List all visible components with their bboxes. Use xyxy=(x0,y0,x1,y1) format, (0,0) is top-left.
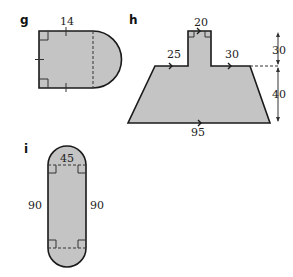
shape-g xyxy=(39,31,122,88)
measure-30-top: 30 xyxy=(225,48,239,61)
arrowhead xyxy=(276,117,280,122)
measure-40: 40 xyxy=(272,88,286,101)
measure-45: 45 xyxy=(60,152,74,165)
measure-14: 14 xyxy=(60,15,74,28)
arrowhead xyxy=(276,67,280,72)
measure-90-right: 90 xyxy=(90,199,104,212)
arrowhead xyxy=(276,60,280,65)
diagram-canvas: g 14 h 20 25 30 95 30 40 i xyxy=(0,0,293,277)
measure-90-left: 90 xyxy=(28,199,42,212)
measure-20: 20 xyxy=(194,16,208,29)
figure-g: g 14 xyxy=(20,13,122,92)
measure-95: 95 xyxy=(191,126,205,139)
figure-i: i 45 90 90 xyxy=(24,142,104,267)
figure-label-g: g xyxy=(20,13,29,27)
measure-25: 25 xyxy=(167,48,181,61)
shape-h xyxy=(128,31,270,123)
figure-label-i: i xyxy=(24,142,28,156)
arrowhead xyxy=(276,32,280,37)
figure-h: h 20 25 30 95 30 40 xyxy=(128,13,286,139)
measure-30-height: 30 xyxy=(272,44,286,57)
figure-label-h: h xyxy=(129,13,138,27)
